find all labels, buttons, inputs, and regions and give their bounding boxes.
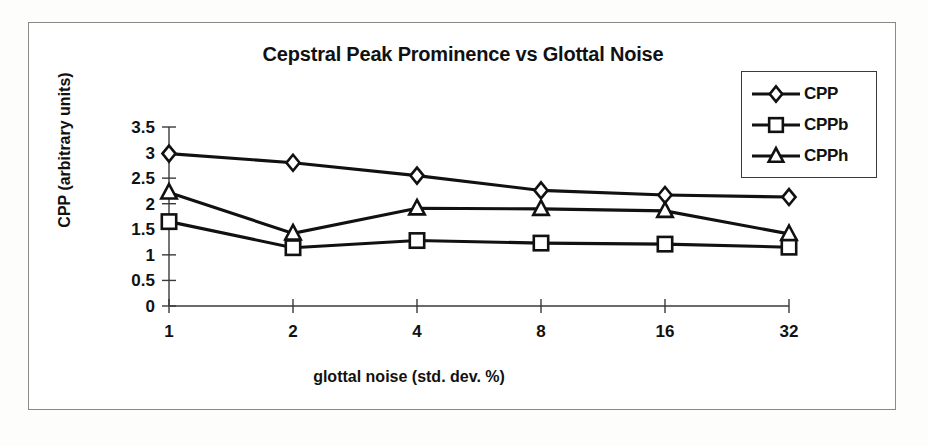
data-point-cppb — [534, 236, 548, 250]
legend-item-cppb[interactable]: CPPb — [742, 109, 876, 140]
x-tick-label: 8 — [536, 322, 545, 341]
legend-label: CPPb — [804, 115, 848, 135]
data-point-cppb — [658, 237, 672, 251]
screenshot-page: Cepstral Peak Prominence vs Glottal Nois… — [0, 0, 928, 445]
y-axis-title: CPP (arbitrary units) — [56, 50, 74, 250]
legend-item-cpph[interactable]: CPPh — [742, 140, 876, 171]
legend-label: CPP — [804, 84, 838, 104]
legend-label: CPPh — [804, 146, 848, 166]
y-tick-label: 3 — [146, 144, 155, 163]
y-tick-label: 2.5 — [131, 169, 155, 188]
legend-marker-triangle-icon — [750, 145, 802, 167]
y-tick-label: 2 — [146, 195, 155, 214]
data-point-cpp — [782, 189, 795, 205]
x-axis-title: glottal noise (std. dev. %) — [29, 368, 789, 386]
legend-item-cpp[interactable]: CPP — [742, 78, 876, 109]
y-tick-label: 1 — [146, 246, 155, 265]
data-point-cpp — [410, 168, 423, 184]
y-tick-label: 1.5 — [131, 220, 155, 239]
x-tick-label: 1 — [164, 322, 173, 341]
series-line-cpph — [169, 192, 789, 233]
x-tick-label: 16 — [656, 322, 675, 341]
data-point-cppb — [162, 214, 176, 228]
data-point-cppb — [782, 240, 796, 254]
data-point-cpph — [161, 184, 176, 198]
x-tick-label: 32 — [780, 322, 799, 341]
series-line-cpp — [169, 154, 789, 197]
chart-legend: CPPCPPbCPPh — [741, 71, 877, 178]
legend-marker-diamond-icon — [750, 83, 802, 105]
y-tick-label: 0.5 — [131, 271, 155, 290]
data-point-cpp — [534, 182, 547, 198]
series-lines — [169, 154, 789, 248]
chart-frame: Cepstral Peak Prominence vs Glottal Nois… — [28, 22, 896, 410]
data-point-cpp — [286, 155, 299, 171]
data-point-cppb — [410, 233, 424, 247]
series-line-cppb — [169, 222, 789, 248]
legend-marker-square-icon — [750, 114, 802, 136]
data-point-cpp — [162, 146, 175, 162]
x-tick-label: 4 — [412, 322, 422, 341]
y-tick-label: 3.5 — [131, 118, 155, 137]
y-tick-label: 0 — [146, 297, 155, 316]
data-point-cppb — [286, 240, 300, 254]
x-tick-label: 2 — [288, 322, 297, 341]
